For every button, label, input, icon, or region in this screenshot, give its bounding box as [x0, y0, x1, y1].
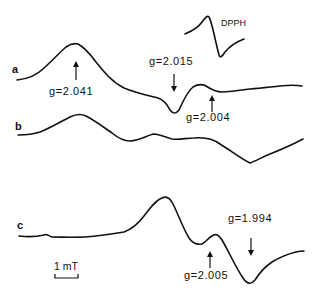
scale-bar-line	[55, 274, 78, 278]
trace-a-label: a	[12, 63, 19, 75]
trace-b-label: b	[15, 120, 22, 132]
scale-bar-label: 1 mT	[54, 260, 79, 272]
g-label-2015: g=2.015	[149, 55, 193, 67]
g-label-2041: g=2.041	[49, 85, 93, 97]
spectra-plot: DPPH a g=2.041 g=2.015 g=2.004 b c g=1.9…	[0, 0, 319, 305]
trace-b: b	[15, 115, 303, 163]
g-label-1994: g=1.994	[228, 212, 272, 224]
scale-bar: 1 mT	[54, 260, 79, 278]
dpph-reference: DPPH	[185, 16, 246, 56]
g-label-2004: g=2.004	[186, 111, 230, 123]
trace-a: a g=2.041 g=2.015 g=2.004	[12, 44, 302, 123]
epr-spectra-figure: DPPH a g=2.041 g=2.015 g=2.004 b c g=1.9…	[0, 0, 319, 305]
g-label-2005: g=2.005	[184, 269, 228, 281]
trace-c-label: c	[17, 219, 23, 231]
trace-b-line	[18, 115, 303, 163]
dpph-label: DPPH	[221, 18, 246, 28]
